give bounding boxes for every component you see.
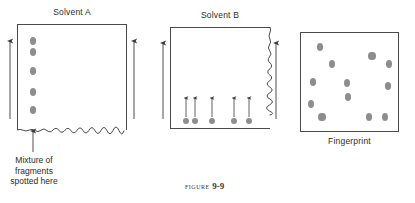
figure-root: Solvent A Mixture of fragments spotted h… — [0, 0, 415, 203]
plate-edge-wavy-solvent-b — [267, 27, 273, 115]
vector-overlay — [0, 0, 415, 203]
figure-caption-number: 9-9 — [212, 181, 224, 191]
figure-caption: FIGURE 9-9 — [185, 181, 224, 191]
figure-caption-label: FIGURE — [185, 181, 210, 191]
